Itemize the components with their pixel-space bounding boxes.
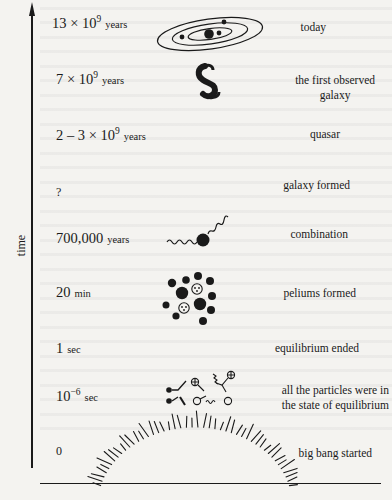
time-axis: [31, 12, 33, 468]
nucleus-cluster-icon: [162, 272, 222, 344]
event-label-equilibrium-ended: equilibrium ended: [275, 341, 359, 356]
time-label-peliums: 20min: [56, 284, 91, 301]
time-label-combination: 700,000years: [56, 230, 129, 247]
first-galaxy-icon: [195, 62, 225, 102]
photon-particle-icon: [165, 218, 235, 250]
event-label-combination: combination: [291, 227, 349, 242]
time-label-big-bang: 0: [56, 444, 62, 459]
galaxy-orbits-icon: [155, 12, 265, 57]
time-axis-label: time: [14, 231, 29, 261]
time-label-galaxy-formed: ?: [56, 185, 61, 200]
time-label-equilibrium-ended: 1sec: [56, 340, 81, 357]
time-label-quasar: 2 – 3 × 109years: [56, 126, 146, 144]
particles-equilibrium-icon: [160, 370, 250, 412]
event-label-peliums: peliums formed: [284, 286, 357, 301]
time-label-today: 13 × 109years: [52, 14, 127, 32]
time-label-equilibrium: 10−6sec: [56, 387, 98, 405]
event-label-big-bang: big bang started: [299, 446, 372, 461]
big-bang-burst-icon: [90, 410, 300, 485]
event-label-equilibrium: all the particles were in the state of e…: [282, 383, 389, 413]
event-label-galaxy-formed: galaxy formed: [283, 178, 350, 193]
event-label-today: today: [300, 20, 326, 35]
event-label-first-galaxy: the first observed galaxy: [295, 73, 375, 103]
event-label-quasar: quasar: [310, 127, 340, 142]
time-label-first-galaxy: 7 × 109years: [56, 70, 124, 88]
